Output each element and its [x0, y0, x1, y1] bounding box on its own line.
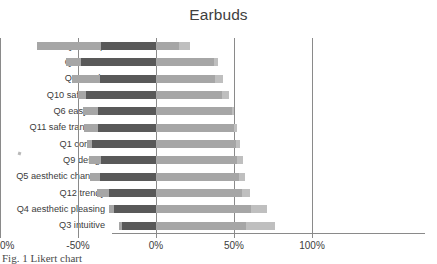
bar-row	[112, 152, 424, 168]
bar-segment-positive	[156, 156, 237, 164]
bar-segment-positive	[156, 140, 236, 148]
bar-segment-positive	[156, 205, 251, 213]
bar-segment-strong-positive	[242, 189, 250, 197]
bar-segment-negative	[98, 124, 156, 132]
bar-segment-positive	[156, 58, 214, 66]
bar-row	[112, 136, 424, 152]
bar-segment-negative	[92, 140, 156, 148]
bar-segment-strong-positive	[215, 75, 223, 83]
bar-row	[112, 71, 424, 87]
bar-segment-strong-positive	[222, 91, 230, 99]
bar-segment-negative	[114, 205, 156, 213]
bar-segment-negative	[122, 222, 156, 230]
bar-segment-strong-positive	[232, 107, 234, 115]
bar-segment-positive	[156, 222, 246, 230]
chart-container: Earbuds Q8 cheapQ2 robustQ7 trendyQ10 sa…	[0, 0, 437, 264]
bar-segment-strong-positive	[246, 222, 274, 230]
x-axis-tick-label: -50%	[48, 240, 108, 251]
bar-row	[112, 38, 424, 54]
bar-segment-positive	[156, 75, 215, 83]
bar-segment-strong-positive	[234, 124, 237, 132]
bar-row	[112, 103, 424, 119]
figure-caption: Fig. 1 Likert chart	[2, 252, 82, 264]
bar-segment-strong-negative	[66, 58, 82, 66]
bar-segment-strong-positive	[179, 42, 190, 50]
bar-segment-positive	[156, 42, 179, 50]
bar-segment-strong-negative	[78, 91, 86, 99]
bar-segment-negative	[100, 173, 156, 181]
bar-segment-negative	[81, 58, 156, 66]
bar-row	[112, 201, 424, 217]
bar-segment-strong-positive	[237, 156, 243, 164]
x-axis-tick	[156, 234, 157, 238]
bar-segment-positive	[156, 91, 222, 99]
bar-segment-negative	[100, 75, 156, 83]
bar-row	[112, 185, 424, 201]
bar-segment-negative	[101, 42, 156, 50]
chart-title: Earbuds	[0, 6, 437, 24]
bar-row	[112, 87, 424, 103]
gridline	[78, 38, 79, 234]
bar-segment-positive	[156, 124, 234, 132]
x-axis-tick-label: 0%	[126, 240, 186, 251]
bar-segment-strong-negative	[89, 156, 101, 164]
bar-segment-positive	[156, 173, 239, 181]
x-axis-tick	[0, 234, 1, 238]
x-axis-tick	[78, 234, 79, 238]
x-axis-tick-label: 50%	[204, 240, 264, 251]
bar-segment-strong-negative	[90, 173, 99, 181]
x-axis-tick	[234, 234, 235, 238]
bar-segment-negative	[109, 189, 156, 197]
bar-segment-strong-positive	[236, 140, 241, 148]
gridline	[0, 38, 1, 234]
bar-row	[112, 54, 424, 70]
bar-segment-negative	[101, 156, 156, 164]
bar-segment-strong-negative	[84, 124, 98, 132]
bar-segment-strong-negative	[83, 107, 99, 115]
bar-segment-strong-positive	[214, 58, 219, 66]
bar-segment-strong-negative	[72, 75, 100, 83]
bar-segment-negative	[86, 91, 156, 99]
bar-row	[112, 120, 424, 136]
bar-segment-positive	[156, 107, 232, 115]
bar-segment-strong-positive	[251, 205, 267, 213]
bar-segment-negative	[98, 107, 156, 115]
x-axis-tick-label: 100%	[282, 240, 342, 251]
bar-segment-strong-negative	[97, 189, 109, 197]
bar-segment-strong-negative	[37, 42, 101, 50]
x-axis-tick	[312, 234, 313, 238]
plot-area	[112, 38, 424, 234]
bar-segment-positive	[156, 189, 242, 197]
bar-row	[112, 169, 424, 185]
bar-segment-strong-positive	[239, 173, 245, 181]
x-axis-tick-label: -100%	[0, 240, 30, 251]
bar-row	[112, 218, 424, 234]
